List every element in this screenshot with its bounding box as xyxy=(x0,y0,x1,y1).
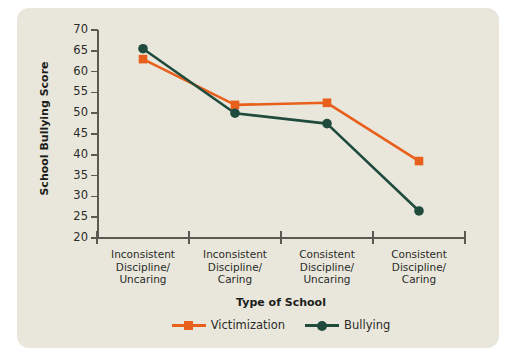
series-victimization xyxy=(139,55,424,166)
chart-legend: VictimizationBullying xyxy=(97,318,465,332)
legend-square-marker xyxy=(184,321,193,330)
series-line xyxy=(143,59,419,161)
legend-circle-marker xyxy=(317,321,327,331)
data-point xyxy=(231,101,240,110)
legend-swatch xyxy=(305,319,339,331)
data-point xyxy=(414,206,424,216)
legend-label: Victimization xyxy=(211,318,285,332)
data-point xyxy=(322,119,332,129)
series-bullying xyxy=(138,44,424,216)
legend-swatch xyxy=(172,319,206,331)
data-point xyxy=(415,157,424,166)
chart-series-layer xyxy=(0,0,516,356)
legend-item: Bullying xyxy=(305,318,390,332)
data-point xyxy=(323,99,332,108)
series-line xyxy=(143,49,419,211)
data-point xyxy=(230,108,240,118)
chart-figure: 7065605550454035302520 InconsistentDisci… xyxy=(0,0,516,356)
legend-item: Victimization xyxy=(172,318,285,332)
legend-label: Bullying xyxy=(344,318,390,332)
data-point xyxy=(138,44,148,54)
data-point xyxy=(139,55,148,64)
